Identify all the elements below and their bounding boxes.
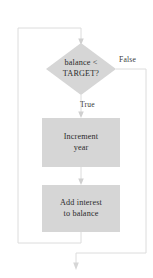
edge-label-false: False bbox=[119, 55, 136, 64]
edge-label-true: True bbox=[80, 100, 95, 109]
edge-increment-to-interest bbox=[78, 167, 84, 185]
flowchart-graphics bbox=[0, 0, 153, 278]
interest-node-shape bbox=[42, 185, 120, 232]
increment-node-shape bbox=[42, 118, 120, 167]
flowchart-canvas: balance < TARGET? Increment year Add int… bbox=[0, 0, 153, 278]
decision-node-shape bbox=[46, 43, 116, 95]
